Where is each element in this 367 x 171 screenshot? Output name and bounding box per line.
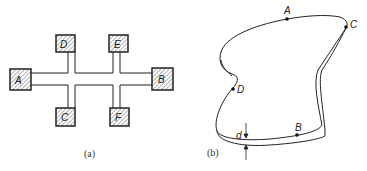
svg-text:D: D [237,84,244,95]
pad-F: F [110,108,129,126]
pad-D: D [56,35,75,52]
svg-text:C: C [350,19,358,30]
svg-text:C: C [61,112,69,123]
figure-canvas: A B C D E F (a) A C D [0,0,367,171]
svg-text:B: B [295,122,302,133]
pad-B: B [152,68,173,90]
svg-text:A: A [283,5,291,16]
thickness-indicator [244,123,248,160]
svg-text:D: D [60,39,67,50]
svg-text:E: E [114,39,121,50]
svg-text:B: B [158,74,165,85]
caption-a: (a) [84,148,95,160]
pad-A: A [10,69,31,90]
pad-C: C [56,108,75,126]
svg-text:F: F [115,112,122,123]
hall-bar-diagram [31,52,152,108]
van-der-pauw-sample [216,16,347,146]
pad-E: E [109,35,128,52]
svg-text:A: A [14,75,22,86]
contact-point-D: D [231,84,244,95]
caption-b: (b) [207,147,219,159]
thickness-label: d [236,130,242,141]
